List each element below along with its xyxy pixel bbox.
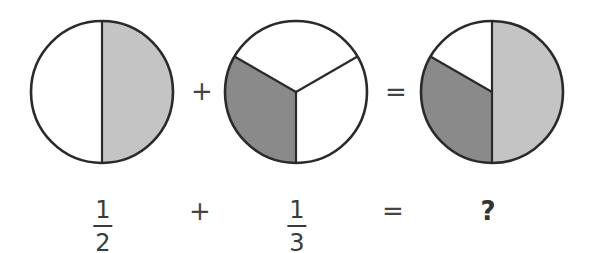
- numerator: 1: [287, 198, 306, 222]
- fraction-bar: [287, 225, 306, 227]
- pie-one-half: [31, 21, 173, 163]
- pie-one-third: [225, 21, 367, 163]
- fraction-one-third: 1 3: [287, 198, 306, 253]
- equals-sign-top: =: [385, 79, 407, 105]
- half-slice: [492, 21, 563, 163]
- question-mark: ?: [480, 196, 495, 226]
- fraction-bar: [93, 225, 112, 227]
- denominator: 2: [93, 231, 112, 253]
- pie-sum: [421, 21, 563, 163]
- equals-sign-bottom: =: [382, 198, 404, 224]
- plus-sign-top: +: [191, 78, 213, 104]
- plus-sign-bottom: +: [189, 198, 211, 224]
- half-slice: [102, 21, 173, 163]
- denominator: 3: [287, 231, 306, 253]
- fraction-one-half: 1 2: [93, 198, 112, 253]
- numerator: 1: [93, 198, 112, 222]
